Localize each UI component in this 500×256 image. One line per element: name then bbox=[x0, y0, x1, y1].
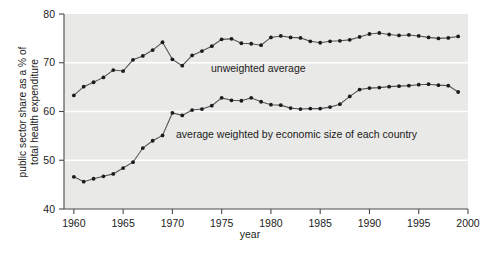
y-axis-title-line2: total health expenditure bbox=[29, 59, 40, 165]
data-point bbox=[348, 38, 352, 42]
data-point bbox=[328, 39, 332, 43]
data-point bbox=[377, 31, 381, 35]
data-point bbox=[358, 35, 362, 39]
data-point bbox=[190, 54, 194, 58]
x-tick-label-1960: 1960 bbox=[62, 217, 86, 229]
data-point bbox=[269, 36, 273, 40]
data-point bbox=[200, 107, 204, 111]
data-point bbox=[180, 114, 184, 118]
data-point bbox=[407, 84, 411, 88]
y-tick-label-80: 80 bbox=[43, 8, 55, 20]
data-point bbox=[387, 85, 391, 89]
data-point bbox=[239, 41, 243, 45]
data-point bbox=[151, 48, 155, 52]
data-point bbox=[308, 107, 312, 111]
data-point bbox=[397, 84, 401, 88]
data-point bbox=[249, 96, 253, 100]
data-point bbox=[72, 175, 76, 179]
y-tick-label-70: 70 bbox=[43, 56, 55, 68]
data-point bbox=[161, 40, 165, 44]
y-tick-label-50: 50 bbox=[43, 154, 55, 166]
chart-container: 4050607080 19601965197019751980198519901… bbox=[0, 0, 500, 256]
data-point bbox=[210, 104, 214, 108]
data-point bbox=[456, 35, 460, 39]
x-tick-label-1980: 1980 bbox=[259, 217, 283, 229]
x-axis-title: year bbox=[240, 228, 261, 240]
data-point bbox=[338, 39, 342, 43]
data-point bbox=[259, 43, 263, 47]
y-tick-label-40: 40 bbox=[43, 203, 55, 215]
data-point bbox=[220, 37, 224, 41]
data-point bbox=[230, 37, 234, 41]
data-point bbox=[230, 98, 234, 102]
data-point bbox=[72, 94, 76, 98]
data-point bbox=[92, 80, 96, 84]
data-point bbox=[446, 84, 450, 88]
x-tick-label-1990: 1990 bbox=[358, 217, 382, 229]
data-point bbox=[328, 105, 332, 109]
data-point bbox=[456, 90, 460, 94]
x-tick-label-1995: 1995 bbox=[407, 217, 431, 229]
data-point bbox=[427, 82, 431, 86]
line-chart: 4050607080 19601965197019751980198519901… bbox=[0, 0, 500, 256]
data-point bbox=[269, 103, 273, 107]
data-point bbox=[289, 36, 293, 40]
data-point bbox=[161, 133, 165, 137]
x-tick-label-1985: 1985 bbox=[309, 217, 333, 229]
data-point bbox=[121, 69, 125, 73]
data-point bbox=[279, 34, 283, 38]
data-point bbox=[446, 36, 450, 40]
data-point bbox=[210, 44, 214, 48]
data-point bbox=[102, 75, 106, 79]
data-point bbox=[200, 49, 204, 53]
data-point bbox=[102, 174, 106, 178]
y-tick-label-60: 60 bbox=[43, 105, 55, 117]
data-point bbox=[111, 68, 115, 72]
data-point bbox=[151, 139, 155, 143]
data-point bbox=[427, 36, 431, 40]
data-point bbox=[259, 100, 263, 104]
y-axis-title-line1: public sector share as a % of bbox=[17, 46, 28, 177]
data-point bbox=[289, 106, 293, 110]
data-point bbox=[348, 94, 352, 98]
data-point bbox=[249, 42, 253, 46]
data-point bbox=[358, 88, 362, 92]
x-tick-label-2000: 2000 bbox=[456, 217, 480, 229]
data-point bbox=[131, 160, 135, 164]
data-point bbox=[82, 85, 86, 89]
data-point bbox=[417, 83, 421, 87]
data-point bbox=[220, 96, 224, 100]
data-point bbox=[407, 33, 411, 37]
data-point bbox=[308, 39, 312, 43]
data-point bbox=[141, 54, 145, 58]
data-point bbox=[180, 64, 184, 68]
data-point bbox=[368, 32, 372, 36]
data-point bbox=[437, 36, 441, 40]
data-point bbox=[131, 58, 135, 62]
data-point bbox=[437, 83, 441, 87]
data-point bbox=[299, 36, 303, 40]
data-point bbox=[387, 33, 391, 37]
data-point bbox=[92, 177, 96, 181]
x-tick-label-1975: 1975 bbox=[210, 217, 234, 229]
data-point bbox=[111, 172, 115, 176]
data-point bbox=[239, 99, 243, 103]
data-point bbox=[299, 107, 303, 111]
x-tick-label-1965: 1965 bbox=[111, 217, 135, 229]
data-point bbox=[368, 86, 372, 90]
data-point bbox=[279, 103, 283, 107]
data-point bbox=[318, 107, 322, 111]
data-point bbox=[338, 102, 342, 106]
data-point bbox=[170, 57, 174, 61]
data-point bbox=[417, 34, 421, 38]
annotation-unweighted-average: unweighted average bbox=[211, 62, 306, 74]
annotation-weighted-average: average weighted by economic size of eac… bbox=[176, 128, 418, 140]
data-point bbox=[190, 108, 194, 112]
data-point bbox=[377, 86, 381, 90]
data-point bbox=[397, 34, 401, 38]
data-point bbox=[170, 111, 174, 115]
x-tick-label-1970: 1970 bbox=[161, 217, 185, 229]
data-point bbox=[121, 166, 125, 170]
data-point bbox=[141, 146, 145, 150]
data-point bbox=[318, 41, 322, 45]
